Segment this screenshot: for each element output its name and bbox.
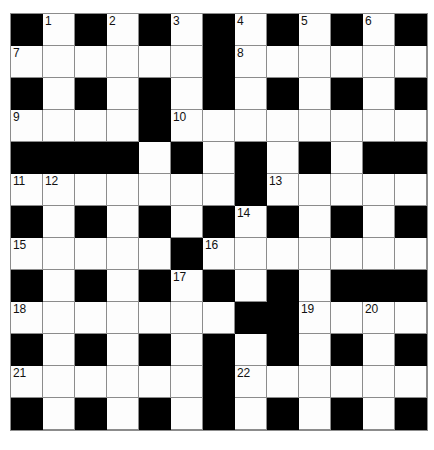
crossword-letter-cell[interactable]: 20: [363, 302, 395, 334]
crossword-letter-cell[interactable]: [107, 366, 139, 398]
crossword-letter-cell[interactable]: [299, 110, 331, 142]
crossword-letter-cell[interactable]: [43, 270, 75, 302]
crossword-letter-cell[interactable]: [331, 366, 363, 398]
crossword-letter-cell[interactable]: [171, 46, 203, 78]
crossword-letter-cell[interactable]: [267, 238, 299, 270]
crossword-letter-cell[interactable]: [203, 302, 235, 334]
crossword-letter-cell[interactable]: [331, 302, 363, 334]
crossword-letter-cell[interactable]: 10: [171, 110, 203, 142]
crossword-letter-cell[interactable]: [75, 46, 107, 78]
crossword-letter-cell[interactable]: [267, 46, 299, 78]
crossword-letter-cell[interactable]: [75, 110, 107, 142]
crossword-letter-cell[interactable]: [299, 206, 331, 238]
crossword-letter-cell[interactable]: [395, 302, 427, 334]
crossword-letter-cell[interactable]: [299, 366, 331, 398]
crossword-letter-cell[interactable]: [395, 238, 427, 270]
crossword-letter-cell[interactable]: [107, 206, 139, 238]
crossword-letter-cell[interactable]: [299, 174, 331, 206]
crossword-letter-cell[interactable]: [299, 238, 331, 270]
crossword-letter-cell[interactable]: 18: [11, 302, 43, 334]
crossword-letter-cell[interactable]: 7: [11, 46, 43, 78]
crossword-letter-cell[interactable]: [107, 110, 139, 142]
crossword-letter-cell[interactable]: [203, 142, 235, 174]
crossword-letter-cell[interactable]: [43, 366, 75, 398]
crossword-letter-cell[interactable]: [107, 270, 139, 302]
crossword-letter-cell[interactable]: 5: [299, 14, 331, 46]
crossword-letter-cell[interactable]: 22: [235, 366, 267, 398]
crossword-letter-cell[interactable]: [43, 238, 75, 270]
crossword-letter-cell[interactable]: [363, 78, 395, 110]
crossword-letter-cell[interactable]: 9: [11, 110, 43, 142]
crossword-letter-cell[interactable]: 13: [267, 174, 299, 206]
crossword-letter-cell[interactable]: [395, 174, 427, 206]
crossword-letter-cell[interactable]: [171, 366, 203, 398]
crossword-letter-cell[interactable]: [139, 366, 171, 398]
crossword-letter-cell[interactable]: [331, 174, 363, 206]
crossword-letter-cell[interactable]: [107, 46, 139, 78]
crossword-letter-cell[interactable]: 12: [43, 174, 75, 206]
crossword-letter-cell[interactable]: [43, 110, 75, 142]
crossword-letter-cell[interactable]: [107, 302, 139, 334]
crossword-letter-cell[interactable]: 15: [11, 238, 43, 270]
crossword-letter-cell[interactable]: 8: [235, 46, 267, 78]
crossword-letter-cell[interactable]: [171, 302, 203, 334]
crossword-letter-cell[interactable]: [139, 238, 171, 270]
crossword-letter-cell[interactable]: [139, 174, 171, 206]
crossword-letter-cell[interactable]: [203, 174, 235, 206]
crossword-letter-cell[interactable]: [43, 206, 75, 238]
crossword-letter-cell[interactable]: [395, 46, 427, 78]
crossword-letter-cell[interactable]: 21: [11, 366, 43, 398]
crossword-letter-cell[interactable]: [267, 366, 299, 398]
crossword-letter-cell[interactable]: [267, 142, 299, 174]
crossword-letter-cell[interactable]: 2: [107, 14, 139, 46]
crossword-letter-cell[interactable]: [107, 174, 139, 206]
crossword-letter-cell[interactable]: [139, 142, 171, 174]
crossword-letter-cell[interactable]: [235, 334, 267, 366]
crossword-letter-cell[interactable]: [299, 398, 331, 430]
crossword-letter-cell[interactable]: [107, 78, 139, 110]
crossword-letter-cell[interactable]: [75, 302, 107, 334]
crossword-letter-cell[interactable]: [203, 110, 235, 142]
crossword-letter-cell[interactable]: [75, 366, 107, 398]
crossword-letter-cell[interactable]: [171, 78, 203, 110]
crossword-letter-cell[interactable]: 16: [203, 238, 235, 270]
crossword-letter-cell[interactable]: [75, 174, 107, 206]
crossword-letter-cell[interactable]: [331, 46, 363, 78]
crossword-letter-cell[interactable]: [331, 142, 363, 174]
crossword-letter-cell[interactable]: 19: [299, 302, 331, 334]
crossword-letter-cell[interactable]: [43, 398, 75, 430]
crossword-letter-cell[interactable]: [299, 46, 331, 78]
crossword-letter-cell[interactable]: [43, 334, 75, 366]
crossword-letter-cell[interactable]: [363, 238, 395, 270]
crossword-letter-cell[interactable]: [363, 398, 395, 430]
crossword-letter-cell[interactable]: [171, 334, 203, 366]
crossword-letter-cell[interactable]: [267, 110, 299, 142]
crossword-letter-cell[interactable]: [395, 366, 427, 398]
crossword-letter-cell[interactable]: [171, 206, 203, 238]
crossword-letter-cell[interactable]: [139, 302, 171, 334]
crossword-letter-cell[interactable]: 11: [11, 174, 43, 206]
crossword-letter-cell[interactable]: [299, 270, 331, 302]
crossword-letter-cell[interactable]: [235, 270, 267, 302]
crossword-letter-cell[interactable]: [107, 398, 139, 430]
crossword-letter-cell[interactable]: [43, 302, 75, 334]
crossword-letter-cell[interactable]: 14: [235, 206, 267, 238]
crossword-letter-cell[interactable]: [171, 174, 203, 206]
crossword-letter-cell[interactable]: [43, 78, 75, 110]
crossword-letter-cell[interactable]: [107, 238, 139, 270]
crossword-letter-cell[interactable]: [171, 398, 203, 430]
crossword-letter-cell[interactable]: [75, 238, 107, 270]
crossword-letter-cell[interactable]: [235, 78, 267, 110]
crossword-letter-cell[interactable]: [331, 110, 363, 142]
crossword-letter-cell[interactable]: [363, 366, 395, 398]
crossword-letter-cell[interactable]: 17: [171, 270, 203, 302]
crossword-letter-cell[interactable]: [235, 398, 267, 430]
crossword-letter-cell[interactable]: [363, 46, 395, 78]
crossword-letter-cell[interactable]: 1: [43, 14, 75, 46]
crossword-letter-cell[interactable]: 3: [171, 14, 203, 46]
crossword-letter-cell[interactable]: [331, 238, 363, 270]
crossword-letter-cell[interactable]: [363, 110, 395, 142]
crossword-letter-cell[interactable]: [363, 334, 395, 366]
crossword-letter-cell[interactable]: [43, 46, 75, 78]
crossword-letter-cell[interactable]: 6: [363, 14, 395, 46]
